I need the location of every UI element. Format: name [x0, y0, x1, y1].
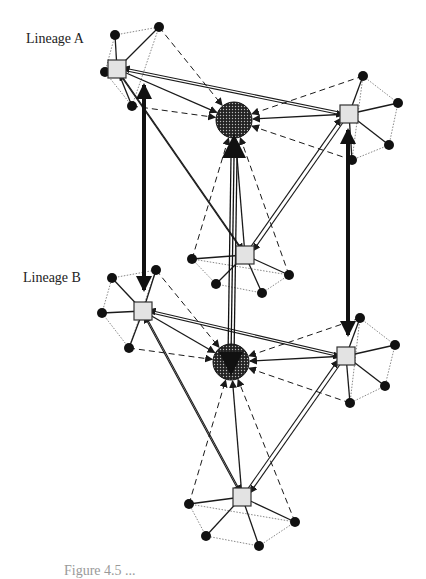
satellite-ring-edge [360, 318, 395, 345]
hub-link-line [231, 158, 234, 357]
satellite-node [384, 140, 394, 150]
member-square-A2 [340, 105, 358, 123]
satellite-ring-edge [385, 345, 395, 386]
satellite-node [355, 313, 365, 323]
member-to-member-arrow [250, 356, 346, 493]
member-square-B3 [233, 488, 251, 506]
satellite-ring-edge [350, 386, 385, 403]
satellite-node [184, 499, 194, 509]
satellite-ring-edge [259, 522, 295, 546]
satellite-node [187, 254, 197, 264]
satellite-to-hub-dashed-arrow [156, 270, 219, 347]
member-to-member-arrow [242, 360, 338, 497]
member-to-member-arrow [144, 316, 242, 497]
satellite-node [290, 517, 300, 527]
member-to-member-arrow [245, 118, 341, 255]
member-to-member-arrow [253, 114, 349, 251]
satellite-ring-edge [216, 284, 262, 293]
satellite-node [284, 270, 294, 280]
satellite-ring-edge [352, 145, 389, 160]
satellite-node [380, 381, 390, 391]
satellite-ring-edge [102, 278, 112, 313]
satellite-node [358, 71, 368, 81]
satellite-node [151, 265, 161, 275]
satellite-node [393, 98, 403, 108]
satellite-ring-edge [112, 270, 156, 278]
satellite-to-hub-dashed-arrow [189, 380, 226, 504]
satellite-ring-edge [363, 76, 398, 103]
member-to-member-arrow [143, 311, 241, 492]
member-square-A1 [108, 60, 126, 78]
satellite-node [347, 155, 357, 165]
satellite-to-hub-dashed-arrow [192, 138, 229, 259]
satellite-ring-edge [189, 504, 295, 522]
satellite-node [211, 279, 221, 289]
satellite-ring-edge [192, 259, 216, 284]
satellite-node [154, 22, 164, 32]
satellite-node [254, 541, 264, 551]
satellite-ring-edge [189, 504, 206, 536]
satellite-ring-edge [102, 313, 129, 348]
satellite-ring-edge [389, 103, 398, 145]
member-to-hub-arrow [253, 114, 349, 119]
satellite-node [201, 531, 211, 541]
member-square-B1 [134, 302, 152, 320]
satellite-node [124, 343, 134, 353]
satellite-to-hub-dashed-arrow [159, 27, 222, 105]
satellite-node [110, 30, 120, 40]
member-to-member-arrow [119, 73, 245, 255]
satellite-to-hub-dashed-arrow [249, 368, 350, 403]
satellite-node [257, 288, 267, 298]
member-to-hub-arrow [250, 356, 346, 361]
satellite-node [127, 101, 137, 111]
member-square-B2 [337, 347, 355, 365]
member-square-A3 [236, 246, 254, 264]
satellite-node [345, 398, 355, 408]
hub-link-line [228, 158, 231, 357]
satellite-node [107, 273, 117, 283]
satellite-node [390, 340, 400, 350]
satellite-ring-edge [206, 536, 259, 546]
hub-circle-lineage-a [216, 102, 252, 138]
satellite-node [97, 308, 107, 318]
member-to-member-arrow [149, 310, 346, 356]
satellite-to-hub-dashed-arrow [129, 348, 212, 359]
